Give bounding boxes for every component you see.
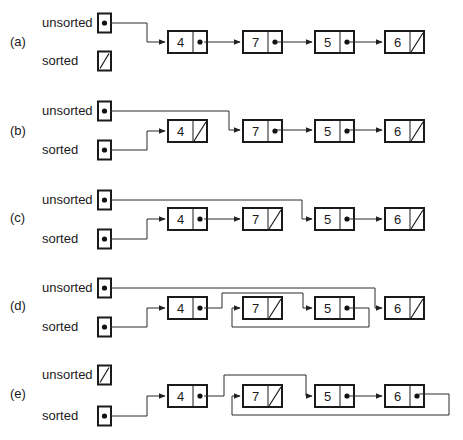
pointer-dot-icon	[102, 108, 107, 113]
list-node: 6	[385, 120, 424, 142]
pointer-dot-icon	[197, 39, 202, 44]
node-value: 6	[394, 389, 401, 404]
pointer-dot-icon	[344, 128, 349, 133]
node-value: 4	[177, 301, 184, 316]
list-node: 4	[168, 31, 207, 53]
pointer-dot-icon	[197, 393, 202, 398]
node-value: 4	[177, 124, 184, 139]
pointer-dot-icon	[102, 413, 107, 418]
pointer-arrow	[110, 23, 165, 42]
panel-tag: (b)	[10, 123, 26, 138]
list-node: 4	[168, 385, 207, 407]
sorted-label: sorted	[42, 319, 78, 334]
panel-tag: (c)	[10, 210, 25, 225]
node-value: 7	[252, 389, 259, 404]
node-value: 4	[177, 389, 184, 404]
list-node: 6	[385, 297, 424, 319]
pointer-arrow	[110, 219, 165, 239]
list-node: 7	[243, 208, 282, 230]
pointer-arrow	[110, 131, 165, 150]
unsorted-label: unsorted	[42, 103, 93, 118]
panel-tag: (a)	[10, 34, 26, 49]
list-node: 6	[385, 385, 424, 407]
node-value: 5	[324, 212, 331, 227]
list-node: 4	[168, 120, 207, 142]
sorted-label: sorted	[42, 53, 78, 68]
pointer-dot-icon	[102, 147, 107, 152]
node-value: 7	[252, 124, 259, 139]
list-node: 7	[243, 385, 282, 407]
sorted-label: sorted	[42, 142, 78, 157]
panel-e: (e)unsortedsorted4756	[10, 366, 449, 426]
unsorted-label: unsorted	[42, 280, 93, 295]
panel-tag: (d)	[10, 298, 26, 313]
pointer-dot-icon	[197, 216, 202, 221]
node-value: 7	[252, 212, 259, 227]
node-value: 6	[394, 35, 401, 50]
sorted-label: sorted	[42, 231, 78, 246]
pointer-dot-icon	[414, 393, 419, 398]
pointer-arrow	[110, 396, 165, 416]
unsorted-label: unsorted	[42, 192, 93, 207]
list-insertion-sort-diagram: (a)unsortedsorted4756(b)unsortedsorted47…	[0, 0, 463, 440]
sorted-label: sorted	[42, 408, 78, 423]
node-value: 6	[394, 124, 401, 139]
list-node: 6	[385, 31, 424, 53]
node-value: 5	[324, 389, 331, 404]
panel-b: (b)unsortedsorted4756	[10, 102, 424, 160]
pointer-dot-icon	[102, 197, 107, 202]
list-node: 7	[243, 297, 282, 319]
panel-d: (d)unsortedsorted4756	[10, 279, 424, 337]
panel-c: (c)unsortedsorted4756	[10, 191, 424, 249]
pointer-dot-icon	[102, 20, 107, 25]
pointer-dot-icon	[197, 305, 202, 310]
node-value: 7	[252, 35, 259, 50]
pointer-dot-icon	[102, 324, 107, 329]
list-node: 4	[168, 208, 207, 230]
pointer-dot-icon	[102, 236, 107, 241]
list-node: 4	[168, 297, 207, 319]
panel-tag: (e)	[10, 386, 26, 401]
node-value: 6	[394, 212, 401, 227]
node-value: 6	[394, 301, 401, 316]
list-node: 6	[385, 208, 424, 230]
list-node: 5	[315, 120, 354, 142]
pointer-dot-icon	[102, 285, 107, 290]
node-value: 5	[324, 124, 331, 139]
node-value: 7	[252, 301, 259, 316]
list-node: 7	[243, 120, 282, 142]
unsorted-label: unsorted	[42, 367, 93, 382]
node-value: 4	[177, 35, 184, 50]
panel-a: (a)unsortedsorted4756	[10, 14, 424, 71]
node-value: 4	[177, 212, 184, 227]
pointer-dot-icon	[272, 128, 277, 133]
pointer-arrow	[110, 308, 165, 327]
node-value: 5	[324, 301, 331, 316]
node-value: 5	[324, 35, 331, 50]
unsorted-label: unsorted	[42, 15, 93, 30]
